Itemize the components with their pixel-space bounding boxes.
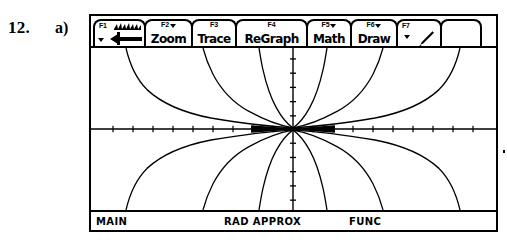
toolbar-tab-f5-caret-down-icon	[330, 24, 336, 28]
toolbar-tab-f4-fkey: F4	[268, 21, 276, 30]
problem-number: 12.	[8, 18, 30, 38]
curve-lower-left-2	[203, 130, 293, 210]
toolbar-tab-f6-caret-down-icon	[375, 24, 381, 28]
toolbar-tab-blank[interactable]	[440, 19, 482, 48]
status-graph-mode: FUNC	[349, 216, 381, 227]
worksheet-page: 12. a) F1	[0, 0, 507, 246]
graph-canvas	[91, 48, 496, 210]
toolbar-tab-f5-math[interactable]: F5 Math	[306, 19, 352, 48]
toolbar-tab-f6-draw[interactable]: F6 Draw	[350, 19, 398, 48]
curve-family-lower-left	[126, 130, 293, 210]
toolbar-tab-f3-trace[interactable]: F3 Trace	[191, 19, 237, 48]
toolbar-tab-f7-caret-down-icon	[404, 35, 410, 39]
curve-upper-right-3	[293, 48, 327, 128]
toolbar-tab-f2-fkey: F2	[161, 21, 169, 30]
curve-upper-right-2	[293, 48, 383, 128]
toolbar-tab-f1-caret-down-icon	[98, 38, 104, 42]
tools-left-arrow-icon	[108, 32, 144, 46]
curve-upper-left-2	[203, 48, 293, 128]
tools-scribble-icon	[114, 22, 142, 31]
status-angle-mode: RAD APPROX	[224, 216, 301, 227]
toolbar-tab-f2-caret-down-icon	[170, 24, 176, 28]
toolbar-tab-f4-regraph[interactable]: F4 ReGraph	[235, 19, 308, 48]
problem-part-label: a)	[55, 19, 68, 37]
toolbar-tab-f1-tools[interactable]: F1	[93, 19, 146, 48]
status-folder: MAIN	[96, 216, 127, 227]
toolbar-tab-f5-fkey: F5	[322, 21, 330, 30]
toolbar-tab-f1-fkey: F1	[99, 22, 107, 31]
curve-family-upper-right	[293, 48, 460, 128]
toolbar-tab-f3-fkey: F3	[210, 21, 218, 30]
scan-artifact-mark	[503, 150, 505, 153]
toolbar-tab-f7-fkey: F7	[402, 22, 410, 31]
calculator-status-bar: MAIN RAD APPROX FUNC	[91, 210, 496, 230]
graph-viewport[interactable]	[91, 46, 496, 210]
curve-lower-left-3	[259, 130, 293, 210]
curve-family-upper-left	[126, 48, 293, 128]
toolbar-tab-f2-zoom[interactable]: F2 Zoom	[144, 19, 193, 48]
calculator-toolbar: F1 F2 Zoom	[91, 16, 496, 48]
curve-lower-right-2	[293, 130, 383, 210]
curve-upper-left-3	[259, 48, 293, 128]
curve-lower-right-3	[293, 130, 327, 210]
calculator-screen: F1 F2 Zoom	[89, 14, 498, 232]
toolbar-tab-f6-fkey: F6	[367, 21, 375, 30]
toolbar-tab-f7-pen[interactable]: F7	[396, 19, 442, 48]
curve-family-lower-right	[293, 130, 460, 210]
